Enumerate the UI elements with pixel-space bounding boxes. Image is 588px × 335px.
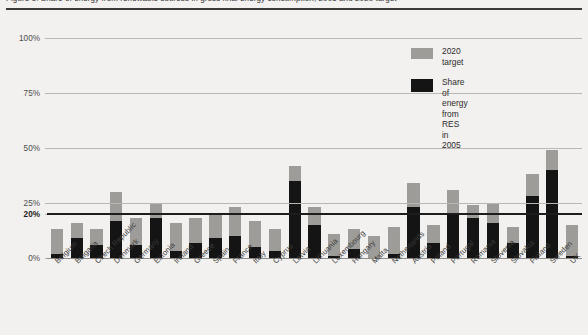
y-tick-label-20: 20% [24,210,40,219]
res-swatch-icon [411,79,433,92]
legend-label-res: Share of energy from RES in 2005 [442,77,468,151]
gridline-50 [47,148,582,149]
x-axis-labels: BelgiumBulgariaCzech RepublicDenmarkGerm… [47,259,588,335]
y-tick-label-0: 0% [28,254,40,263]
y-axis-labels: 100%75%50%25%20%0% [0,38,44,263]
y-tick-label-25: 25% [24,199,40,208]
y-tick-label-100: 100% [19,34,40,43]
gridline-100 [47,38,582,39]
figure-title: Figure 1: Share of energy from renewable… [6,0,397,3]
gridline-25 [47,203,582,204]
figure-title-strip: Figure 1: Share of energy from renewable… [0,0,588,11]
gridline-20 [47,213,582,215]
legend-label-target: 2020 target [442,46,463,67]
y-tick-label-75: 75% [24,89,40,98]
gridline-75 [47,93,582,94]
y-tick-label-50: 50% [24,144,40,153]
target-swatch-icon [411,48,433,59]
title-divider [6,8,582,10]
chart-figure: Figure 1: Share of energy from renewable… [0,0,588,335]
